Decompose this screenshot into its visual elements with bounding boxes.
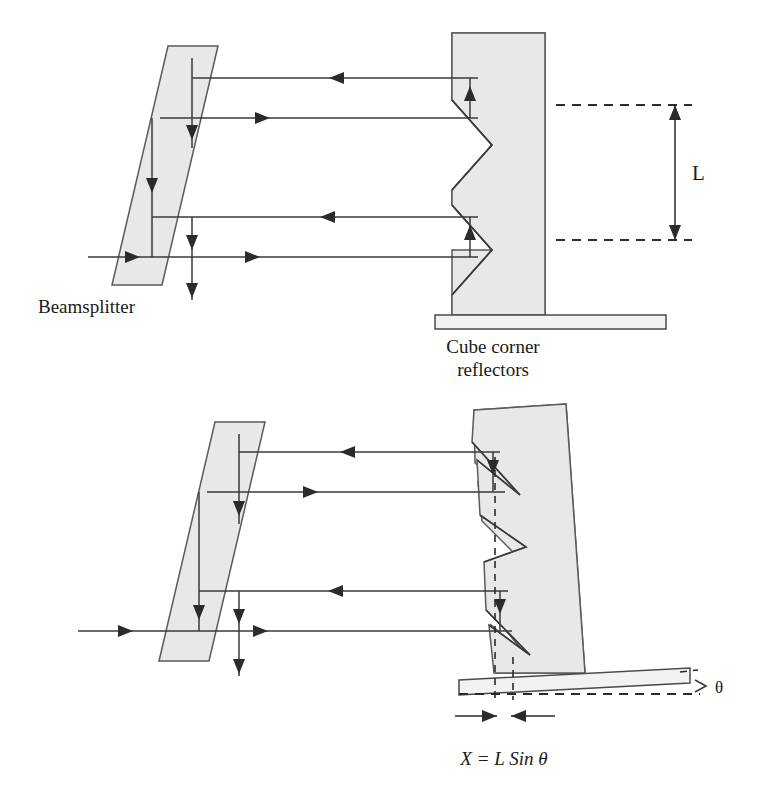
beamsplitter-label: Beamsplitter [38, 296, 136, 317]
theta-label: θ [715, 678, 723, 697]
cube-corner-label-line2: reflectors [457, 359, 529, 380]
figure-container: L Beamsplitter Cube corner reflectors [0, 0, 769, 797]
dimension-L-label: L [692, 161, 705, 185]
cube-corner-label-line1: Cube corner [446, 336, 540, 357]
upper-reflector-block [452, 33, 545, 315]
offset-equation-label: X = L Sin θ [459, 748, 547, 769]
optical-diagram: L Beamsplitter Cube corner reflectors [0, 0, 769, 797]
upper-base-plate [435, 315, 666, 329]
